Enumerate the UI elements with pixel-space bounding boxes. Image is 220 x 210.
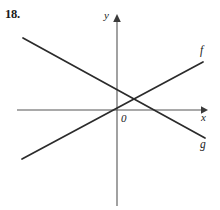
- x-axis-label: x: [201, 112, 206, 123]
- graph-plot: [0, 0, 220, 210]
- curve-g-line: [23, 38, 205, 138]
- problem-number: 18.: [5, 8, 20, 21]
- origin-label: 0: [121, 113, 127, 124]
- curve-f-label: f: [200, 45, 203, 57]
- curve-g-label: g: [200, 139, 206, 151]
- figure-container: 18. y x 0 f g: [0, 0, 220, 210]
- y-axis-label: y: [104, 10, 109, 21]
- y-axis-arrowhead: [113, 14, 121, 22]
